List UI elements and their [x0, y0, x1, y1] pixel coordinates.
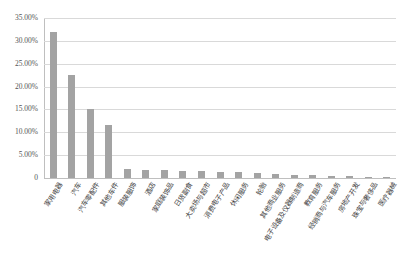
bar	[254, 173, 261, 178]
bar	[346, 176, 353, 178]
y-tick-label: 5.00%	[0, 151, 38, 159]
x-axis-labels: 家用电器汽车汽车零配件其他车件服装服饰酒店家庭装饰品日货副食大卖场与超市消费电子…	[44, 180, 396, 266]
bar	[179, 171, 186, 178]
x-tick-label: 轮胎	[253, 180, 269, 197]
bar	[105, 125, 112, 178]
y-tick-label: 25.00%	[0, 60, 38, 68]
x-tick-label: 酒店	[142, 180, 158, 197]
bar	[291, 175, 298, 178]
bar	[124, 169, 131, 178]
bar	[235, 172, 242, 178]
plot-area	[44, 18, 396, 178]
bar-series	[44, 18, 396, 178]
bar	[161, 170, 168, 178]
bar	[309, 175, 316, 178]
bar	[142, 170, 149, 178]
y-tick-label: 35.00%	[0, 14, 38, 22]
gridline	[44, 178, 396, 179]
y-tick-label: 10.00%	[0, 128, 38, 136]
bar	[272, 174, 279, 178]
bar	[383, 177, 390, 178]
y-tick-label: 0	[0, 174, 38, 182]
bar	[217, 172, 224, 178]
bar-chart: 35.00%30.00%25.00%20.00%15.00%10.00%5.00…	[0, 0, 410, 266]
bar	[50, 32, 57, 178]
x-tick-label: 家用电器	[42, 180, 65, 208]
y-tick-label: 30.00%	[0, 37, 38, 45]
bar	[328, 176, 335, 178]
bar	[68, 75, 75, 178]
bar	[365, 177, 372, 178]
y-tick-label: 20.00%	[0, 83, 38, 91]
y-tick-label: 15.00%	[0, 105, 38, 113]
bar	[87, 109, 94, 178]
x-tick-label: 汽车	[68, 180, 84, 197]
bar	[198, 171, 205, 178]
